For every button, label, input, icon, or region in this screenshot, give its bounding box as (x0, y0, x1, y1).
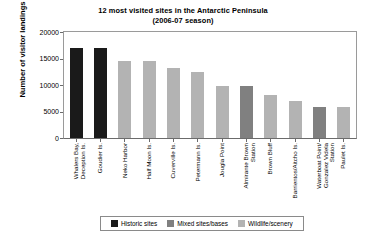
bar-slot (332, 32, 356, 138)
y-tick-mark (60, 138, 63, 139)
x-tick-mark (100, 139, 101, 142)
x-label-slot: Neko Harbor (113, 143, 137, 205)
x-tick-mark (76, 139, 77, 142)
legend-swatch-mixed (167, 220, 174, 227)
bar-slot (88, 32, 112, 138)
chart-title: 12 most visited sites in the Antarctic P… (0, 6, 366, 26)
x-label-slot: Half Moon Is. (137, 143, 161, 205)
y-tick-mark (60, 112, 63, 113)
x-tick-mark (124, 139, 125, 142)
bar-slot (259, 32, 283, 138)
x-axis-ticks (64, 139, 356, 142)
x-axis-label: Almirante BrownStation (243, 143, 256, 205)
x-label-slot: Brown Bluff (259, 143, 283, 205)
x-tick-slot (161, 139, 185, 142)
x-tick-slot (332, 139, 356, 142)
x-tick-mark (343, 139, 344, 142)
x-axis-label: Cuverville Is. (170, 143, 177, 205)
x-axis-label: Paulet Is. (340, 143, 347, 205)
bar (94, 48, 107, 138)
x-tick-mark (197, 139, 198, 142)
x-tick-mark (319, 139, 320, 142)
x-axis-label-line: Paulet Is. (340, 143, 347, 205)
x-tick-mark (173, 139, 174, 142)
x-axis-label: Jougla Point (219, 143, 226, 205)
x-tick-mark (246, 139, 247, 142)
bar (191, 72, 204, 138)
legend-swatch-wildlife (238, 220, 245, 227)
chart-legend: Historic sitesMixed sites/basesWildlife/… (100, 216, 304, 231)
bar (240, 86, 253, 138)
x-axis-label-line: Neko Harbor (122, 143, 129, 205)
x-axis-label: Petermann Is. (195, 143, 202, 205)
x-label-slot: Whalers Bay,Deception Is. (64, 143, 88, 205)
x-label-slot: Paulet Is. (332, 143, 356, 205)
y-tick-label: 10000 (23, 82, 63, 89)
x-tick-slot (64, 139, 88, 142)
bar (167, 68, 180, 138)
y-tick-mark (60, 32, 63, 33)
bar (143, 61, 156, 138)
x-tick-slot (259, 139, 283, 142)
x-tick-mark (149, 139, 150, 142)
bar (216, 86, 229, 138)
bar-series (64, 32, 356, 138)
x-axis-label: Goudier Is. (97, 143, 104, 205)
y-tick-mark (60, 59, 63, 60)
legend-item: Wildlife/scenery (238, 220, 293, 227)
y-tick-label: 5000 (23, 108, 63, 115)
x-axis-label-line: Deception Is. (79, 143, 86, 205)
x-tick-slot (234, 139, 258, 142)
x-label-slot: Waterboat Point/Gonzalez VidelaStation (307, 143, 331, 205)
x-axis-label: Neko Harbor (122, 143, 129, 205)
legend-label: Mixed sites/bases (177, 220, 228, 227)
bar-slot (137, 32, 161, 138)
bar (313, 107, 326, 138)
bar (70, 48, 83, 138)
bar-slot (234, 32, 258, 138)
x-tick-slot (283, 139, 307, 142)
x-tick-slot (210, 139, 234, 142)
x-tick-slot (307, 139, 331, 142)
x-label-slot: Barrientos/Aitcho Is. (283, 143, 307, 205)
y-tick-label: 15000 (23, 55, 63, 62)
bar-slot (283, 32, 307, 138)
x-axis-label: Half Moon Is. (146, 143, 153, 205)
x-tick-mark (295, 139, 296, 142)
x-tick-mark (270, 139, 271, 142)
legend-label: Historic sites (121, 220, 157, 227)
x-axis-label-line: Half Moon Is. (146, 143, 153, 205)
legend-item: Mixed sites/bases (167, 220, 228, 227)
x-axis-label-line: Station (250, 143, 257, 205)
chart-subtitle: (2006-07 season) (0, 16, 366, 26)
x-tick-slot (113, 139, 137, 142)
x-label-slot: Goudier Is. (88, 143, 112, 205)
x-label-slot: Petermann Is. (186, 143, 210, 205)
bar-slot (210, 32, 234, 138)
plot-area-wrapper: 20000150001000050000 (63, 31, 357, 139)
x-label-slot: Jougla Point (210, 143, 234, 205)
x-tick-slot (137, 139, 161, 142)
y-tick-mark (60, 85, 63, 86)
x-tick-mark (222, 139, 223, 142)
bar (337, 107, 350, 138)
bar (118, 61, 131, 138)
chart-container: 12 most visited sites in the Antarctic P… (0, 0, 366, 245)
bar-slot (64, 32, 88, 138)
x-axis-label-line: Jougla Point (219, 143, 226, 205)
x-axis-label: Barrientos/Aitcho Is. (292, 143, 299, 205)
bar (264, 95, 277, 138)
x-axis-label-line: Cuverville Is. (170, 143, 177, 205)
x-tick-slot (88, 139, 112, 142)
bar-slot (186, 32, 210, 138)
y-tick-label: 0 (23, 135, 63, 142)
x-axis-label: Whalers Bay,Deception Is. (73, 143, 86, 205)
bar-slot (113, 32, 137, 138)
x-axis-labels: Whalers Bay,Deception Is.Goudier Is.Neko… (64, 143, 356, 205)
x-axis-label-line: Brown Bluff (267, 143, 274, 205)
bar-slot (307, 32, 331, 138)
bar (289, 101, 302, 138)
x-label-slot: Cuverville Is. (161, 143, 185, 205)
chart-title-line1: 12 most visited sites in the Antarctic P… (98, 6, 268, 15)
x-axis-label-line: Petermann Is. (195, 143, 202, 205)
